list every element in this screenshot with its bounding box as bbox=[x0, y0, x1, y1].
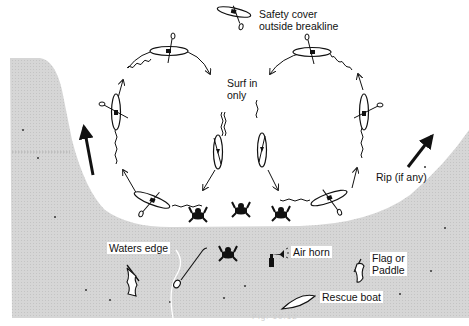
kayak bbox=[99, 94, 128, 130]
air-horn-label: Air horn bbox=[291, 246, 332, 258]
rescue-boat-label: Rescue boat bbox=[320, 291, 383, 303]
swimmer-icon bbox=[189, 207, 207, 222]
surf-in-only-label: Surf in only bbox=[227, 77, 257, 101]
safety-cover-label: Safety cover outside breakline bbox=[259, 8, 338, 32]
kayak-safety-cover bbox=[214, 3, 252, 32]
kayak bbox=[308, 182, 354, 223]
kayak bbox=[214, 135, 223, 169]
diagram-canvas bbox=[0, 0, 469, 326]
kayak bbox=[258, 133, 267, 167]
waters-edge-label: Waters edge bbox=[107, 242, 170, 254]
kayak bbox=[150, 33, 188, 63]
kayak bbox=[354, 94, 383, 130]
rip-arrow-left bbox=[84, 127, 93, 175]
rip-arrow-right bbox=[408, 136, 432, 167]
rip-label: Rip (if any) bbox=[376, 171, 427, 183]
swimmer-icon bbox=[232, 202, 250, 217]
swimmer-icon bbox=[272, 206, 290, 221]
figure-caption: Fig. 10.12 bbox=[252, 312, 298, 321]
surf-safety-diagram: Safety cover outside breakline Surf in o… bbox=[0, 0, 469, 326]
left-surf-circuit bbox=[115, 50, 223, 207]
kayak bbox=[293, 34, 331, 64]
kayak bbox=[127, 184, 173, 226]
right-surf-circuit bbox=[224, 52, 363, 201]
flag-or-paddle-label: Flag or Paddle bbox=[370, 252, 407, 276]
